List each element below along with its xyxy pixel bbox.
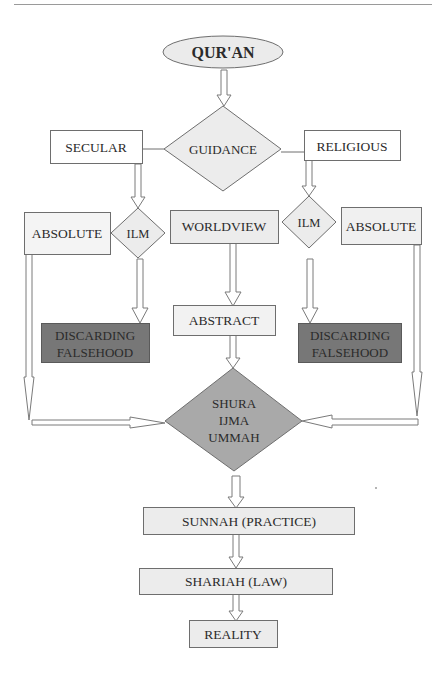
node-absolute-right: ABSOLUTE	[342, 208, 422, 245]
node-discarding-left-line1: DISCARDING	[55, 328, 135, 343]
arrow-secular-to-ilm-left	[131, 164, 145, 208]
node-secular-label: SECULAR	[65, 140, 127, 155]
node-guidance: GUIDANCE	[164, 106, 281, 191]
arrow-worldview-to-abstract	[225, 243, 241, 306]
node-ilm-left: ILM	[111, 208, 165, 258]
node-ilm-right-label: ILM	[298, 216, 321, 230]
node-absolute-right-label: ABSOLUTE	[346, 219, 417, 234]
arrow-sunnah-to-shariah	[229, 534, 243, 568]
arrow-right-into-shura	[302, 415, 418, 428]
node-religious: RELIGIOUS	[305, 131, 401, 161]
node-ilm-right: ILM	[282, 196, 336, 248]
node-reality-label: REALITY	[204, 627, 262, 642]
node-religious-label: RELIGIOUS	[316, 139, 387, 154]
node-quran-label: QUR'AN	[191, 44, 255, 61]
node-shura-ijma-ummah: SHURA IJMA UMMAH	[165, 368, 302, 471]
node-shura-line1: SHURA	[212, 396, 257, 411]
node-quran: QUR'AN	[163, 36, 283, 68]
arrow-absolute-left-down	[24, 254, 34, 420]
node-absolute-left: ABSOLUTE	[25, 213, 111, 255]
node-shariah: SHARIAH (LAW)	[140, 569, 333, 595]
node-worldview: WORLDVIEW	[171, 211, 279, 244]
node-discarding-falsehood-right: DISCARDING FALSEHOOD	[299, 324, 402, 363]
node-secular: SECULAR	[51, 131, 143, 164]
arrow-abstract-to-shura	[226, 335, 240, 368]
arrow-ilm-left-to-discarding-left	[132, 259, 148, 323]
node-discarding-falsehood-left: DISCARDING FALSEHOOD	[42, 324, 150, 363]
arrow-absolute-right-down	[412, 245, 422, 416]
arrow-quran-to-guidance	[217, 70, 231, 106]
flowchart-canvas: .stroke { stroke: #6e6e6e; stroke-width:…	[0, 0, 446, 680]
node-shura-line2: IJMA	[219, 413, 250, 428]
arrow-left-into-shura	[32, 417, 165, 428]
node-shura-line3: UMMAH	[208, 430, 259, 445]
node-worldview-label: WORLDVIEW	[182, 219, 267, 234]
scan-speck	[375, 487, 377, 489]
arrow-shura-to-sunnah	[228, 476, 244, 508]
node-shariah-label: SHARIAH (LAW)	[185, 574, 287, 589]
node-guidance-label: GUIDANCE	[189, 142, 257, 157]
arrow-religious-to-ilm-right	[302, 160, 316, 196]
node-abstract: ABSTRACT	[174, 306, 276, 336]
arrow-ilm-right-to-discarding-right	[302, 259, 318, 323]
node-sunnah: SUNNAH (PRACTICE)	[144, 508, 355, 535]
node-abstract-label: ABSTRACT	[189, 313, 260, 328]
node-sunnah-label: SUNNAH (PRACTICE)	[182, 514, 316, 529]
node-discarding-right-line2: FALSEHOOD	[312, 345, 388, 360]
arrow-shariah-to-reality	[229, 594, 243, 621]
node-ilm-left-label: ILM	[127, 227, 150, 241]
node-absolute-left-label: ABSOLUTE	[32, 226, 103, 241]
node-reality: REALITY	[190, 621, 278, 648]
node-discarding-left-line2: FALSEHOOD	[57, 345, 133, 360]
node-discarding-right-line1: DISCARDING	[310, 328, 390, 343]
